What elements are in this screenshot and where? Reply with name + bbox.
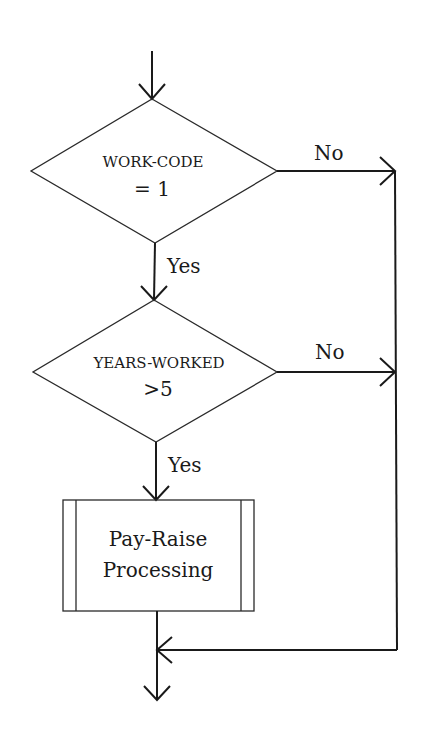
entry-arrow	[139, 51, 165, 99]
yes-branch-arrow-1	[141, 243, 167, 300]
decision2-yes-label: Yes	[168, 453, 202, 477]
decision-diamond-work-code	[31, 99, 277, 243]
decision2-condition-label: YEARS-WORKED	[93, 354, 224, 372]
decision2-no-label: No	[315, 340, 345, 364]
yes-branch-arrow-2	[143, 442, 169, 500]
process-label-line1: Pay-Raise	[109, 527, 207, 551]
decision1-yes-label: Yes	[167, 254, 201, 278]
bypass-connector	[157, 171, 397, 663]
process-box-pay-raise	[63, 500, 254, 611]
decision2-value-label: >5	[143, 377, 172, 401]
decision1-value-label: = 1	[134, 177, 170, 201]
decision1-no-label: No	[314, 141, 344, 165]
process-label-line2: Processing	[103, 558, 214, 582]
decision1-condition-label: WORK-CODE	[103, 153, 204, 171]
exit-arrow	[144, 611, 170, 700]
